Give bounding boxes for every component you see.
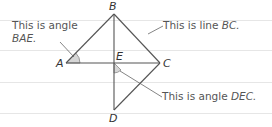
angle-dec-shade bbox=[114, 63, 121, 73]
callout-angle-bae-name: BAE. bbox=[12, 33, 78, 44]
callout-line-bc-prefix: This is line bbox=[163, 19, 222, 31]
callout-line-bc-name: BC. bbox=[222, 19, 240, 31]
leader-angle-bae bbox=[60, 42, 74, 57]
callout-angle-dec-name: DEC. bbox=[231, 90, 256, 102]
point-label-b: B bbox=[109, 1, 117, 12]
point-label-e: E bbox=[116, 51, 123, 62]
leader-angle-dec bbox=[120, 71, 162, 97]
callout-angle-bae-prefix: This is angle bbox=[12, 20, 78, 31]
callout-angle-bae: This is angle BAE. bbox=[12, 20, 78, 44]
callout-angle-dec-prefix: This is angle bbox=[162, 90, 231, 102]
callout-angle-dec: This is angle DEC. bbox=[162, 91, 256, 102]
point-label-a: A bbox=[56, 58, 64, 69]
geometry-diagram: B A C E D This is angle BAE. This is lin… bbox=[0, 0, 272, 127]
point-label-d: D bbox=[109, 113, 117, 124]
callout-line-bc: This is line BC. bbox=[163, 20, 240, 31]
leader-line-bc bbox=[148, 26, 163, 34]
point-label-c: C bbox=[163, 58, 171, 69]
